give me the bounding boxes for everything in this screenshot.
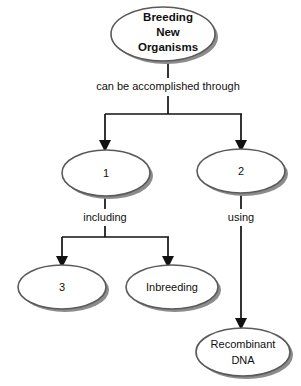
node-branch-1[interactable]: 1 (62, 150, 153, 199)
node-outline (196, 328, 290, 376)
node-inbreeding[interactable]: Inbreeding (126, 265, 221, 312)
edge-label-using: using (228, 211, 254, 223)
node-recombinant-dna[interactable]: Recombinant DNA (196, 328, 293, 379)
node-label-line1: Recombinant (211, 338, 276, 350)
node-label: 1 (103, 167, 109, 179)
node-branch-2[interactable]: 2 (197, 149, 288, 196)
concept-map-canvas: Breeding New Organisms can be accomplish… (0, 0, 301, 386)
node-label: 2 (238, 165, 244, 177)
node-label-line1: Breeding (143, 11, 193, 23)
node-label-line2: DNA (231, 354, 255, 366)
node-label-line3: Organisms (138, 41, 198, 53)
node-breeding-new-organisms[interactable]: Breeding New Organisms (111, 7, 218, 64)
edge-label-root-to-branches: can be accomplished through (96, 80, 240, 92)
connector-leaf-bar (56, 237, 174, 268)
node-leaf-3[interactable]: 3 (18, 265, 109, 312)
node-label-line2: New (156, 26, 180, 38)
concept-map-diagram: Breeding New Organisms can be accomplish… (0, 0, 301, 386)
connector-branch-bar (99, 114, 247, 152)
node-label: Inbreeding (146, 281, 198, 293)
edge-label-including: including (83, 211, 126, 223)
connector-label-to-leaf3 (235, 226, 247, 330)
node-label: 3 (59, 281, 65, 293)
